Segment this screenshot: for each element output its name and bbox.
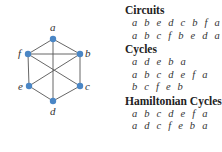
vertex-a: [50, 36, 56, 42]
vertex-f: [25, 51, 31, 57]
vertex-label-c: c: [85, 80, 90, 92]
vertex-c: [77, 83, 83, 89]
circuit-item: a b c f b e d a: [132, 30, 222, 43]
vertex-label-d: d: [50, 105, 56, 117]
graph-diagram: abcdef: [0, 0, 110, 152]
vertex-label-b: b: [85, 47, 91, 59]
sequence-panel: Circuits a b e d c b f a a b c f b e d a…: [125, 4, 222, 134]
vertex-label-a: a: [50, 21, 56, 33]
edge-e-f: [28, 54, 29, 86]
edge-a-b: [53, 39, 80, 54]
hamiltonian-item: a d c f e b a: [132, 120, 222, 133]
vertex-b: [77, 51, 83, 57]
edge-d-e: [29, 86, 53, 101]
edge-a-f: [28, 39, 53, 54]
vertex-label-f: f: [18, 47, 23, 59]
cycle-item: a b c d e f a: [132, 69, 222, 82]
graph-edges: [28, 39, 80, 101]
vertex-d: [50, 98, 56, 104]
circuit-item: a b e d c b f a: [132, 17, 222, 30]
hamiltonian-item: a b c d e f a: [132, 108, 222, 121]
edge-c-d: [53, 86, 80, 101]
vertex-e: [26, 83, 32, 89]
hamiltonian-section: Hamiltonian Cycles a b c d e f a a d c f…: [125, 95, 222, 133]
cycles-section: Cycles a d e b a a b c d e f a b c f e b: [125, 43, 222, 94]
hamiltonian-heading: Hamiltonian Cycles: [125, 95, 222, 108]
vertex-label-e: e: [18, 80, 23, 92]
cycles-heading: Cycles: [125, 43, 222, 56]
circuits-heading: Circuits: [125, 4, 222, 17]
cycle-item: b c f e b: [132, 81, 222, 94]
cycle-item: a d e b a: [132, 56, 222, 69]
circuits-section: Circuits a b e d c b f a a b c f b e d a: [125, 4, 222, 42]
